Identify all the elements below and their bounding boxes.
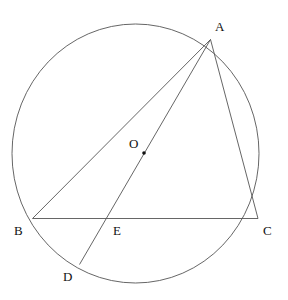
point-label-O: O <box>129 137 138 150</box>
segment-AC <box>211 40 259 219</box>
geometry-canvas <box>0 0 288 300</box>
center-point-O-dot <box>142 151 146 155</box>
point-label-A: A <box>215 20 224 33</box>
geometry-figure: A B C D E O <box>0 0 288 300</box>
point-label-E: E <box>113 224 121 237</box>
point-label-B: B <box>14 224 23 237</box>
circumcircle <box>12 24 259 283</box>
point-label-D: D <box>63 270 72 283</box>
point-label-C: C <box>263 224 272 237</box>
